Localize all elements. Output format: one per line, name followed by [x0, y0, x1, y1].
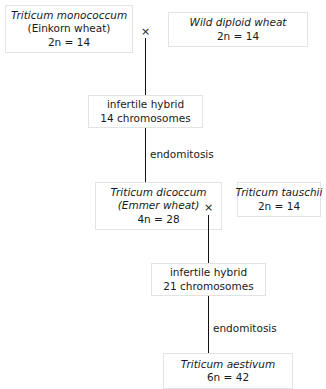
node-triticum-aestivum: Triticum aestivum 6n = 42 [163, 353, 293, 389]
node-line-ploidy: 2n = 14 [48, 36, 90, 50]
node-line-status: infertile hybrid [107, 98, 184, 112]
diagram-canvas: Triticum monococcum (Einkorn wheat) 2n =… [0, 0, 326, 389]
node-line-common-name: (Einkorn wheat) [28, 22, 111, 36]
node-wild-diploid-wheat: Wild diploid wheat 2n = 14 [168, 12, 308, 47]
node-line-ploidy: 2n = 14 [258, 200, 300, 214]
node-line-species: Triticum dicoccum [110, 186, 206, 200]
node-line-ploidy: 2n = 14 [217, 30, 259, 44]
edge-label-endomitosis-1: endomitosis [150, 149, 214, 160]
node-line-common-name: (Emmer wheat) [118, 199, 200, 213]
connector-hybrid21-to-aestivum [208, 296, 209, 353]
node-triticum-tauschii: Triticum tauschii 2n = 14 [237, 182, 321, 217]
node-line-species: Wild diploid wheat [190, 16, 287, 30]
node-line-species: Triticum tauschii [236, 186, 323, 200]
connector-cross1-to-hybrid14 [145, 38, 146, 95]
node-line-status: infertile hybrid [170, 266, 247, 280]
node-infertile-hybrid-14: infertile hybrid 14 chromosomes [88, 95, 203, 128]
node-line-ploidy: 6n = 42 [207, 371, 249, 385]
node-infertile-hybrid-21: infertile hybrid 21 chromosomes [151, 263, 266, 296]
node-line-chromosomes: 21 chromosomes [163, 280, 253, 294]
cross-symbol-icon-2: × [204, 202, 213, 213]
node-line-species: Triticum monococcum [11, 9, 127, 23]
node-line-ploidy: 4n = 28 [137, 213, 179, 227]
connector-cross2-to-hybrid21 [208, 215, 209, 263]
node-triticum-dicoccum: Triticum dicoccum (Emmer wheat) 4n = 28 [95, 182, 222, 230]
cross-symbol-icon-1: × [141, 26, 150, 37]
node-triticum-monococcum: Triticum monococcum (Einkorn wheat) 2n =… [5, 5, 133, 53]
connector-hybrid14-to-dicoccum [145, 128, 146, 182]
edge-label-endomitosis-2: endomitosis [213, 323, 277, 334]
node-line-chromosomes: 14 chromosomes [100, 112, 190, 126]
node-line-species: Triticum aestivum [181, 358, 275, 372]
